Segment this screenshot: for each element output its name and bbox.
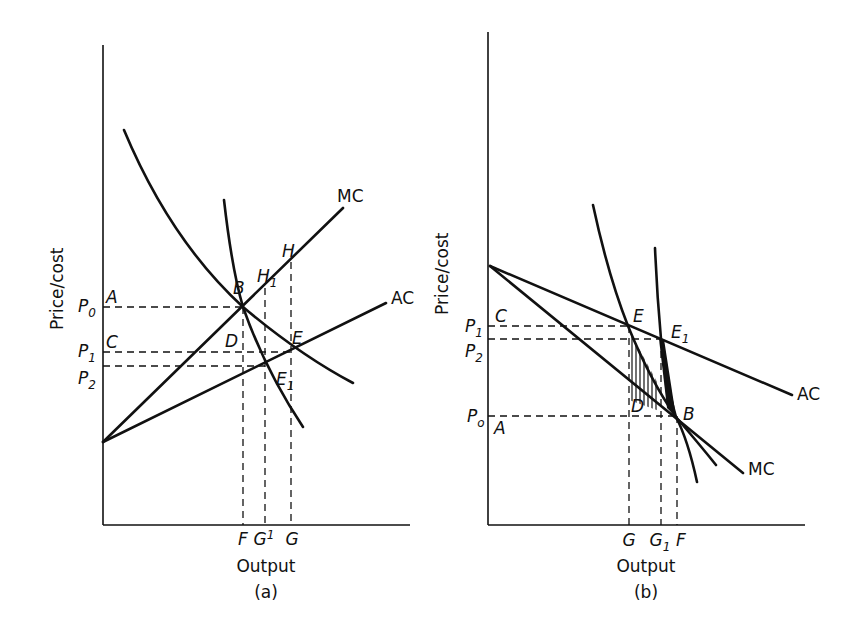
panel-b: Price/cost Output (b) P1 P2 Po C A E E1 … xyxy=(432,32,820,602)
label-a-b: A xyxy=(493,418,506,438)
xlabel-a: Output xyxy=(236,556,295,576)
label-d-b: D xyxy=(631,396,644,416)
label-e1-b: E1 xyxy=(671,322,689,346)
xlabel-b: Output xyxy=(616,556,675,576)
demand-very-steep-b xyxy=(655,248,716,465)
label-ac-b: AC xyxy=(797,384,820,404)
ylabel-b: Price/cost xyxy=(432,232,452,315)
figure-canvas: Price/cost Output (a) P0 P1 P2 A C B D E… xyxy=(0,0,860,641)
label-mc-a: MC xyxy=(337,186,364,206)
label-g1-a: G1 xyxy=(254,528,275,549)
label-d-a: D xyxy=(225,331,238,351)
demand-flatter-a xyxy=(124,130,353,383)
label-p0-a: P0 xyxy=(78,296,96,320)
caption-b: (b) xyxy=(634,582,658,602)
panel-a: Price/cost Output (a) P0 P1 P2 A C B D E… xyxy=(47,45,414,602)
label-p1-b: P1 xyxy=(465,316,483,340)
label-p2-a: P2 xyxy=(78,368,96,392)
caption-a: (a) xyxy=(254,582,278,602)
label-g-b: G xyxy=(622,530,635,550)
label-p0-b: Po xyxy=(467,406,485,430)
label-g1-b: G1 xyxy=(650,530,671,554)
label-c-b: C xyxy=(495,306,507,326)
label-e-b: E xyxy=(633,306,644,326)
label-a-a: A xyxy=(105,287,118,307)
mc-curve-a xyxy=(103,208,343,442)
label-b-a: B xyxy=(233,278,245,298)
label-g-a: G xyxy=(285,529,298,549)
label-ac-a: AC xyxy=(391,288,414,308)
ylabel-a: Price/cost xyxy=(47,247,67,330)
label-e-a: E xyxy=(292,328,303,348)
label-p2-b: P2 xyxy=(465,341,483,365)
ac-curve-b xyxy=(490,266,792,395)
ac-curve-a xyxy=(103,303,386,442)
label-mc-b: MC xyxy=(748,459,775,479)
label-f-a: F xyxy=(238,529,248,549)
label-c-a: C xyxy=(106,332,118,352)
label-h-a: H xyxy=(282,241,295,261)
label-b-b: B xyxy=(683,404,695,424)
label-h1-a: H1 xyxy=(257,266,277,290)
label-p1-a: P1 xyxy=(78,341,96,365)
label-f-b: F xyxy=(676,530,686,550)
